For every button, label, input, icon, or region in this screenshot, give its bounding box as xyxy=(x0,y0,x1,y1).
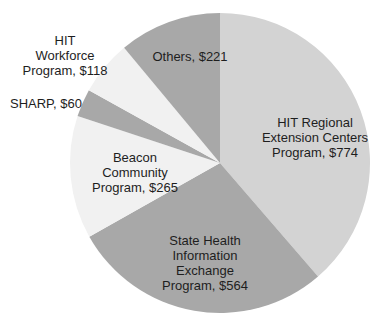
label-others: Others, $221 xyxy=(150,49,230,64)
label-hit-workforce: HIT Workforce Program, $118 xyxy=(20,33,110,78)
label-hit-regional: HIT Regional Extension Centers Program, … xyxy=(255,115,375,160)
label-state-hie: State Health Information Exchange Progra… xyxy=(150,233,260,293)
label-sharp: SHARP, $60 xyxy=(10,96,82,111)
label-beacon: Beacon Community Program, $265 xyxy=(85,150,185,195)
